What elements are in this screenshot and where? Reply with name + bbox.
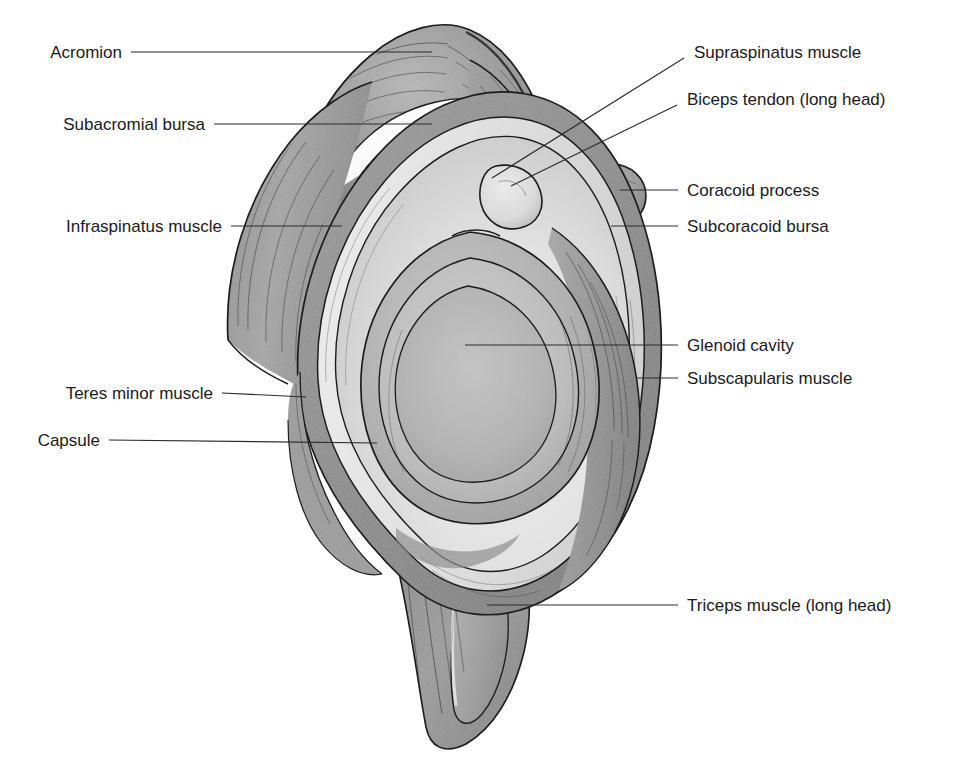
label-text-triceps-muscle-long-head: Triceps muscle (long head) [687, 596, 891, 615]
shoulder-joint-illustration: Acromion Subacromial bursa Infraspinatus… [0, 0, 960, 766]
label-text-biceps-tendon-long-head: Biceps tendon (long head) [687, 90, 885, 109]
label-text-subacromial-bursa: Subacromial bursa [63, 115, 205, 134]
label-text-supraspinatus-muscle: Supraspinatus muscle [694, 43, 861, 62]
label-text-subscapularis-muscle: Subscapularis muscle [687, 369, 852, 388]
label-text-teres-minor-muscle: Teres minor muscle [66, 384, 213, 403]
anatomical-figure: Acromion Subacromial bursa Infraspinatus… [0, 0, 960, 766]
label-text-infraspinatus-muscle: Infraspinatus muscle [66, 217, 222, 236]
label-text-coracoid-process: Coracoid process [687, 181, 819, 200]
label-text-capsule: Capsule [38, 431, 100, 450]
label-text-glenoid-cavity: Glenoid cavity [687, 336, 794, 355]
label-text-subcoracoid-bursa: Subcoracoid bursa [687, 217, 829, 236]
label-text-acromion: Acromion [50, 43, 122, 62]
